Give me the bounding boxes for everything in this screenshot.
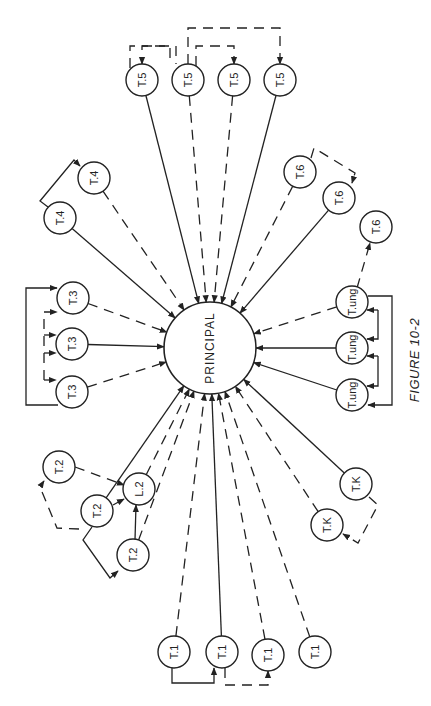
node-t1d: T.1 [299,636,331,668]
node-t1b: T.1 [206,636,238,668]
edge-l2-to-principal [146,389,189,475]
node-label: L.2 [133,481,145,496]
link-20 [367,310,378,339]
link-t5b-to-t5a [142,46,170,64]
link-t5b-to-t5c [196,46,234,66]
link-t2b-to-t2c [83,527,118,578]
node-tuc: T.ung [336,379,368,411]
edge-t3a-to-principal [88,304,167,333]
node-label: T.2 [127,548,139,563]
edge-t2c-to-principal [139,391,194,540]
node-label: T.K [350,475,362,492]
node-label: T.6 [294,165,306,180]
node-t5b: T.5 [172,64,204,96]
node-t4a: T.4 [78,162,110,194]
node-t6c: T.6 [360,211,392,243]
figure-caption: FIGURE 10-2 [407,318,422,402]
node-label: T.ung [346,382,358,409]
node-label: T.4 [88,171,100,186]
edge-tuc-to-principal [254,363,337,391]
edge-tkb-to-principal [235,386,318,511]
link-t3c-to-t3a [44,312,57,380]
link-t6a-to-t6b [311,148,355,183]
edge-t1b-to-principal [212,394,222,636]
principal-label: PRINCIPAL [203,312,217,383]
node-tub: T.ung [336,332,368,364]
node-l2: L.2 [123,473,155,505]
node-t6a: T.6 [284,156,316,188]
node-label: T.ung [346,289,358,316]
node-t5c: T.5 [218,64,250,96]
edge-t3b-to-principal [88,345,164,347]
node-t1c: T.1 [252,639,284,671]
node-label: T.2 [91,504,103,519]
link-22 [367,356,378,386]
node-label: T.1 [262,648,274,663]
node-tkb: T.K [311,509,343,541]
organization-diagram: PRINCIPAL T.5T.5T.5T.5T.4T.4T.3T.3T.3T.2… [0,0,431,706]
edge-t1c-to-principal [219,393,266,639]
edge-t3c-to-principal [87,362,166,387]
node-tka: T.K [340,468,372,500]
edge-t5b-to-principal [189,96,206,302]
node-label: T.1 [309,645,321,660]
node-label: T.2 [53,460,65,475]
edge-tka-to-principal [244,379,345,473]
node-tua: T.ung [336,286,368,318]
node-label: T.3 [66,337,78,352]
link-t1b-to-t1c [225,668,268,685]
node-t2b: T.2 [81,495,113,527]
node-label: T.1 [168,645,180,660]
node-label: T.5 [274,73,286,88]
node-label: T.6 [370,220,382,235]
node-label: T.6 [333,191,345,206]
node-label: T.3 [67,291,79,306]
node-label: T.1 [216,645,228,660]
link-tua-to-t6c [357,243,370,288]
edge-t5a-to-principal [146,96,199,304]
link-t3c-to-t3a [26,288,58,405]
node-label: T.K [321,516,333,533]
link-t2b-to-t2a [40,481,79,529]
link-t4b-to-t4a [40,160,80,207]
node-label: T.5 [136,73,148,88]
node-label: T.3 [66,385,78,400]
node-t5a: T.5 [126,64,158,96]
node-t1a: T.1 [158,636,190,668]
node-t6b: T.6 [323,182,355,214]
edge-t1a-to-principal [176,394,205,636]
node-label: T.4 [54,211,66,226]
node-t5d: T.5 [264,64,296,96]
principal-node: PRINCIPAL [164,302,256,394]
node-t4b: T.4 [44,202,76,234]
edge-t4a-to-principal [103,191,184,310]
node-t3a: T.3 [57,282,89,314]
edge-t6b-to-principal [240,210,329,313]
link-t1a-to-t1b [172,668,214,683]
edge-tua-to-principal [254,307,337,334]
link-t2c-to-l2 [135,505,136,540]
node-label: T.ung [346,335,358,362]
node-label: T.5 [228,73,240,88]
link-tua-to-tuc [368,296,392,405]
link-tka-to-tkb [343,497,378,543]
node-t2a: T.2 [43,451,75,483]
node-t3b: T.3 [56,328,88,360]
node-t2c: T.2 [117,539,149,571]
node-t3c: T.3 [56,376,88,408]
link-t2b-to-l2 [113,499,124,505]
edge-t5d-to-principal [222,96,276,304]
node-label: T.5 [182,73,194,88]
edge-t6a-to-principal [231,186,293,307]
